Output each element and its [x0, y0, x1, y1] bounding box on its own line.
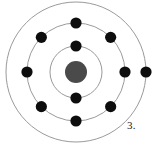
- nucleus-circle: [65, 61, 87, 83]
- bohr-model-figure: 3.: [0, 0, 157, 144]
- electron-shell1-1: [70, 40, 81, 51]
- electron-shell2-8: [105, 101, 116, 112]
- figure-number-label: 3.: [127, 120, 136, 131]
- nucleus-group: [65, 61, 87, 83]
- electron-shell2-3: [70, 17, 81, 28]
- electron-shell2-7: [70, 115, 81, 126]
- electron-shell2-6: [36, 101, 47, 112]
- electron-shell2-4: [36, 32, 47, 43]
- electron-shell2-1: [119, 66, 130, 77]
- electron-shell2-5: [21, 66, 32, 77]
- electron-shell2-2: [105, 32, 116, 43]
- electron-shell3-1: [140, 66, 151, 77]
- electron-shell1-2: [70, 92, 81, 103]
